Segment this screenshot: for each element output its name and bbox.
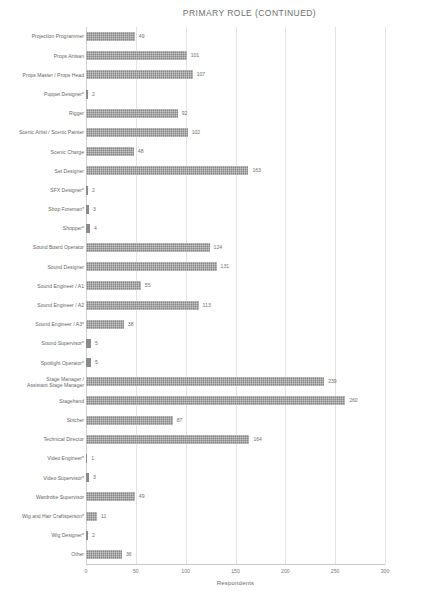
- x-tick-label: 300: [381, 568, 390, 574]
- bar-value-label: 5: [95, 359, 98, 365]
- bar-value-label: 2: [92, 187, 95, 193]
- x-tick-label: 150: [231, 568, 240, 574]
- category-label: Sound Engineer / A3*: [0, 321, 84, 327]
- bar-row: Technical Director164: [0, 430, 439, 448]
- bar: [86, 205, 89, 214]
- x-tick-label: 0: [85, 568, 88, 574]
- category-label: Sound Designer: [0, 264, 84, 270]
- category-label: Puppet Designer*: [0, 91, 84, 97]
- bar-value-label: 4: [94, 225, 97, 231]
- bar-value-label: 38: [128, 321, 134, 327]
- category-label: Wardrobe Supervisor: [0, 494, 84, 500]
- bar-row: Rigger92: [0, 104, 439, 122]
- bar: [86, 70, 193, 79]
- bar-row: Sound Engineer / A2113: [0, 296, 439, 314]
- bar-value-label: 124: [214, 244, 223, 250]
- bar: [86, 416, 173, 425]
- bar: [86, 454, 87, 463]
- bar: [86, 90, 88, 99]
- bar-row: Props Master / Props Head107: [0, 66, 439, 84]
- bar-value-label: 49: [139, 493, 145, 499]
- bar-value-label: 36: [126, 551, 132, 557]
- bar-row: Wig and Hair Craftsperson*11: [0, 507, 439, 525]
- category-label: Video Engineer*: [0, 455, 84, 461]
- bar-value-label: 131: [221, 263, 230, 269]
- x-axis-line: [86, 564, 385, 565]
- x-tick-label: 50: [133, 568, 139, 574]
- bar: [86, 32, 135, 41]
- bar-row: Wardrobe Supervisor49: [0, 488, 439, 506]
- bar: [86, 512, 97, 521]
- category-label: Other: [0, 551, 84, 557]
- bar-row: Projection Programmer49: [0, 28, 439, 46]
- bar-row: SFX Designer*2: [0, 181, 439, 199]
- bar-value-label: 55: [145, 282, 151, 288]
- bar: [86, 301, 199, 310]
- category-label: Set Designer: [0, 168, 84, 174]
- bar: [86, 396, 345, 405]
- bar-row: Video Supervisor*3: [0, 469, 439, 487]
- bar-value-label: 260: [349, 397, 358, 403]
- category-label: Sound Board Operator: [0, 244, 84, 250]
- bar-row: Sound Engineer / A155: [0, 277, 439, 295]
- category-label: Sound Engineer / A1: [0, 283, 84, 289]
- x-tick-label: 200: [281, 568, 290, 574]
- bar: [86, 147, 134, 156]
- bar: [86, 243, 210, 252]
- bar-row: Set Designer163: [0, 162, 439, 180]
- bar: [86, 224, 90, 233]
- category-label: Sound Supervisor*: [0, 340, 84, 346]
- bar: [86, 109, 178, 118]
- bar: [86, 358, 91, 367]
- category-label: Wig Designer*: [0, 532, 84, 538]
- bar: [86, 435, 249, 444]
- category-label: Spotlight Operator*: [0, 360, 84, 366]
- bar-row: Scenic Artist / Scenic Painter102: [0, 123, 439, 141]
- bar-row: Props Artisan101: [0, 47, 439, 65]
- bar: [86, 473, 89, 482]
- x-tick-label: 100: [181, 568, 190, 574]
- bar: [86, 186, 88, 195]
- x-axis-title: Respondents: [86, 580, 385, 586]
- bar-row: Sound Board Operator124: [0, 239, 439, 257]
- category-label: Scenic Charge: [0, 149, 84, 155]
- bar: [86, 550, 122, 559]
- bar-row: Stitcher87: [0, 411, 439, 429]
- bar: [86, 128, 188, 137]
- category-label: Rigger: [0, 110, 84, 116]
- category-label: Wig and Hair Craftsperson*: [0, 513, 84, 519]
- bar-row: Sound Designer131: [0, 258, 439, 276]
- category-label: Stitcher: [0, 417, 84, 423]
- bar-row: Scenic Charge48: [0, 143, 439, 161]
- bar-value-label: 49: [139, 33, 145, 39]
- bar-value-label: 2: [92, 91, 95, 97]
- bar-value-label: 5: [95, 340, 98, 346]
- bar-value-label: 239: [328, 378, 337, 384]
- category-label: Stagehand: [0, 398, 84, 404]
- x-tick-label: 250: [331, 568, 340, 574]
- category-label: Technical Director: [0, 436, 84, 442]
- category-label: Sound Engineer / A2: [0, 302, 84, 308]
- bar-row: Wig Designer*2: [0, 526, 439, 544]
- bar-row: Stage Manager / Assistant Stage Manager2…: [0, 373, 439, 391]
- category-label: Shop Foreman*: [0, 206, 84, 212]
- bar: [86, 51, 187, 60]
- bar-value-label: 101: [191, 52, 200, 58]
- bar-value-label: 11: [101, 513, 106, 519]
- category-label: Shopper*: [0, 225, 84, 231]
- bar: [86, 492, 135, 501]
- bar-row: Sound Supervisor*5: [0, 334, 439, 352]
- bar: [86, 531, 88, 540]
- bar-value-label: 1: [91, 455, 94, 461]
- bar-value-label: 163: [252, 167, 261, 173]
- bar-value-label: 92: [182, 110, 188, 116]
- chart-title: PRIMARY ROLE (CONTINUED): [0, 8, 439, 18]
- bar-value-label: 87: [177, 417, 183, 423]
- bar-row: Puppet Designer*2: [0, 85, 439, 103]
- bar-value-label: 3: [93, 206, 96, 212]
- bar-value-label: 164: [253, 436, 262, 442]
- category-label: Stage Manager / Assistant Stage Manager: [0, 376, 84, 388]
- bar: [86, 339, 91, 348]
- category-label: Projection Programmer: [0, 33, 84, 39]
- bar-value-label: 3: [93, 474, 96, 480]
